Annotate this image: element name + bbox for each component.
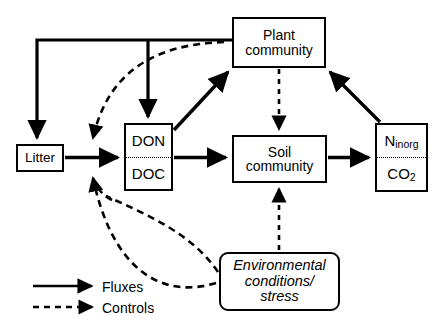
node-soil-community-line2: community	[246, 159, 314, 173]
node-co2-subscript: 2	[410, 171, 416, 183]
node-ninorg-subscript: inorg	[395, 138, 418, 150]
node-environmental-conditions[interactable]: Environmental conditions/ stress	[219, 252, 340, 311]
flux-inorganic-to-plant	[330, 72, 380, 122]
node-doc-cell: DOC	[126, 158, 171, 190]
node-co2-cell: CO2	[377, 158, 426, 190]
node-ninorg-main: N	[384, 132, 395, 149]
node-don-cell: DON	[126, 125, 171, 158]
node-soil-community[interactable]: Soil community	[232, 135, 327, 183]
node-environmental-line3: stress	[260, 289, 299, 305]
node-co2-main: CO	[387, 165, 410, 182]
node-doc-label: DOC	[132, 166, 165, 181]
node-plant-community-line1: Plant	[263, 28, 295, 42]
flux-dom-to-plant	[174, 72, 228, 130]
node-soil-community-line1: Soil	[268, 145, 291, 159]
node-co2-label: CO2	[387, 166, 415, 183]
control-environment-to-soil-left	[95, 182, 218, 272]
node-don-label: DON	[132, 133, 165, 148]
control-environment-to-dom-flux	[93, 178, 216, 287]
legend-fluxes-label: Fluxes	[102, 279, 143, 295]
diagram-canvas: Litter Plant community DON DOC Soil comm…	[0, 0, 446, 330]
node-plant-community[interactable]: Plant community	[232, 17, 326, 68]
node-litter[interactable]: Litter	[16, 144, 64, 172]
node-plant-community-line2: community	[245, 43, 313, 57]
node-environmental-line1: Environmental	[233, 258, 326, 274]
node-inorganic-pool[interactable]: Ninorg CO2	[375, 123, 428, 192]
node-litter-label: Litter	[25, 151, 55, 165]
node-ninorg-cell: Ninorg	[377, 125, 426, 158]
legend-controls-label: Controls	[102, 300, 154, 316]
node-dissolved-organic-matter[interactable]: DON DOC	[124, 123, 173, 191]
node-environmental-line2: conditions/	[245, 274, 314, 290]
node-ninorg-label: Ninorg	[384, 133, 418, 150]
